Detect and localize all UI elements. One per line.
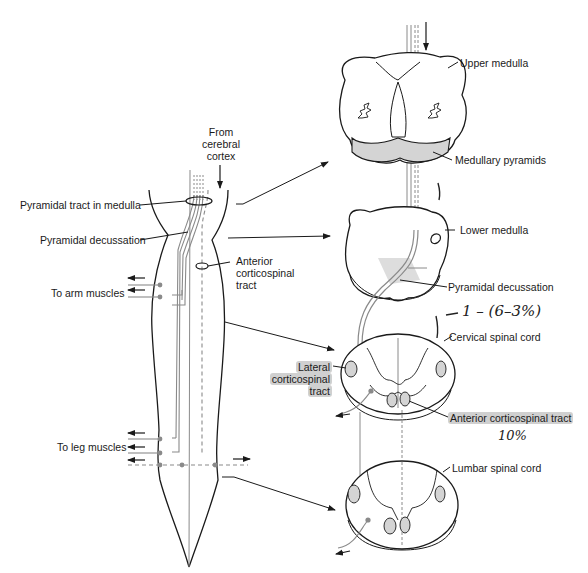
- connector-arrows: [222, 162, 335, 510]
- upper-medulla-section: [340, 53, 467, 164]
- lateral-cst-line-1: Lateral: [296, 361, 332, 373]
- longitudinal-cord: [128, 165, 250, 567]
- anterior-cst-line-2: corticospinal: [236, 267, 294, 279]
- handwritten-anterior-note: 10%: [498, 428, 527, 443]
- medullary-pyramids-label: Medullary pyramids: [455, 154, 546, 166]
- lumbar-cord-section: [336, 461, 458, 554]
- corticospinal-diagram: From cerebral cortex Pyramidal tract in …: [0, 0, 588, 573]
- anterior-cst-label-left: Anterior corticospinal tract: [236, 255, 294, 291]
- leg-muscles-label: To leg muscles: [57, 441, 126, 453]
- pyramidal-decussation-label: Pyramidal decussation: [40, 234, 146, 246]
- from-cortex-line-3: cortex: [194, 150, 248, 162]
- lower-medulla-label: Lower medulla: [460, 224, 528, 236]
- upper-medulla-label: Upper medulla: [460, 57, 528, 69]
- arm-muscles-label: To arm muscles: [51, 287, 125, 299]
- anterior-cst-label-right: Anterior corticospinal tract: [448, 412, 573, 424]
- anterior-cst-line-3: tract: [236, 279, 294, 291]
- lateral-cst-line-3: tract: [308, 385, 332, 397]
- cervical-cord-label: Cervical spinal cord: [449, 331, 541, 343]
- lower-medulla-section: [345, 207, 455, 345]
- handwritten-decussation-note: 1 – (6–3%): [462, 302, 541, 320]
- lateral-cst-line-2: corticospinal: [270, 373, 332, 385]
- from-cortex-line-1: From: [194, 126, 248, 138]
- pyramidal-tract-medulla-label: Pyramidal tract in medulla: [20, 199, 141, 211]
- anterior-cst-line-1: Anterior: [236, 255, 294, 267]
- from-cortex-label: From cerebral cortex: [194, 126, 248, 162]
- lumbar-cord-label: Lumbar spinal cord: [452, 462, 541, 474]
- anterior-cst-text: Anterior corticospinal tract: [448, 412, 573, 424]
- pyramidal-decussation-label-right: Pyramidal decussation: [448, 281, 554, 293]
- lateral-cst-label: Lateral corticospinal tract: [264, 361, 332, 397]
- from-cortex-line-2: cerebral: [194, 138, 248, 150]
